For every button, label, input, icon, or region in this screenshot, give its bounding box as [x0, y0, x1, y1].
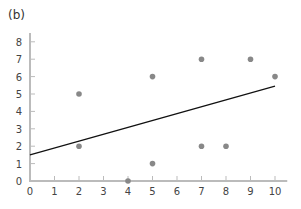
- x-tick-label: 3: [100, 186, 106, 197]
- data-point: [76, 91, 82, 97]
- data-point: [76, 143, 82, 149]
- data-point: [150, 74, 156, 80]
- data-point: [223, 143, 229, 149]
- x-tick-label: 9: [247, 186, 253, 197]
- y-tick-label: 1: [16, 159, 22, 170]
- x-tick-label: 2: [76, 186, 82, 197]
- data-point: [248, 56, 254, 62]
- x-tick-label: 1: [51, 186, 57, 197]
- data-point: [199, 56, 205, 62]
- x-tick-label: 6: [174, 186, 180, 197]
- scatter-plot: (b)012345678910012345678: [0, 0, 301, 209]
- y-tick-label: 2: [16, 141, 22, 152]
- x-tick-label: 7: [198, 186, 204, 197]
- chart-container: (b)012345678910012345678: [0, 0, 301, 209]
- x-tick-label: 10: [269, 186, 282, 197]
- data-point: [125, 178, 131, 184]
- y-tick-label: 4: [16, 106, 22, 117]
- panel-label: (b): [8, 8, 25, 22]
- y-tick-label: 3: [16, 124, 22, 135]
- x-tick-label: 8: [223, 186, 229, 197]
- x-tick-label: 5: [149, 186, 155, 197]
- x-tick-label: 0: [27, 186, 33, 197]
- data-point: [150, 161, 156, 167]
- data-point: [199, 143, 205, 149]
- y-tick-label: 5: [16, 89, 22, 100]
- y-tick-label: 6: [16, 72, 22, 83]
- regression-line: [30, 86, 275, 155]
- y-tick-label: 7: [16, 54, 22, 65]
- y-tick-label: 8: [16, 37, 22, 48]
- y-tick-label: 0: [16, 176, 22, 187]
- x-tick-label: 4: [125, 186, 131, 197]
- data-point: [272, 74, 278, 80]
